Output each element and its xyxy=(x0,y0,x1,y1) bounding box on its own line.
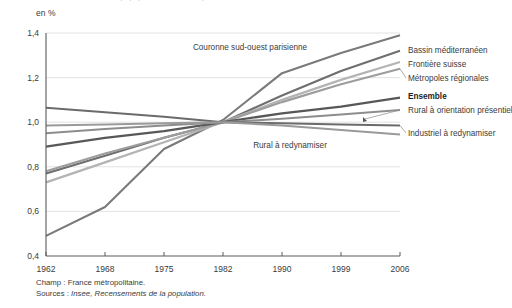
x-axis-tick-labels: 1962196819751982199019992006 xyxy=(37,264,410,274)
x-tick-label: 1982 xyxy=(214,264,233,274)
x-axis-tickmarks xyxy=(46,252,400,256)
series-label-rural-redynamiser: Rural à redynamiser xyxy=(253,141,327,150)
x-tick-label: 1962 xyxy=(37,264,56,274)
y-tick-label: 0,6 xyxy=(27,206,39,216)
chart-figure: · · · · en % 0,40,60,81,01,21,4 19621968… xyxy=(0,0,512,308)
series-label-fronti-re-suisse: Frontière suisse xyxy=(408,60,467,69)
x-tick-label: 2006 xyxy=(391,264,410,274)
footnote-sources: Sources : Insee, Recensements de la popu… xyxy=(36,289,206,300)
footnotes: Champ : France métropolitaine. Sources :… xyxy=(36,278,206,299)
axes-group xyxy=(46,33,400,256)
y-axis-tick-labels: 0,40,60,81,01,21,4 xyxy=(27,28,39,261)
data-series-group xyxy=(46,35,400,236)
y-tick-label: 1,2 xyxy=(27,73,39,83)
series-leader-line xyxy=(400,126,406,134)
series-label-m-tropoles-r-gionales: Métropoles régionales xyxy=(408,74,489,83)
series-label-bassin-m-diterran-en: Bassin méditerranéen xyxy=(408,46,488,55)
footnote-champ: Champ : France métropolitaine. xyxy=(36,278,206,289)
series-label-industriel-redynamiser: Industriel à redynamiser xyxy=(408,129,496,138)
footnote-sources-text: Insee, Recensements de la population. xyxy=(71,289,206,298)
series-label-couronne-sud-ouest-parisienne: Couronne sud-ouest parisienne xyxy=(193,43,308,52)
x-tick-label: 1990 xyxy=(273,264,292,274)
x-tick-label: 1999 xyxy=(332,264,351,274)
x-tick-label: 1968 xyxy=(96,264,115,274)
callout-arrow-icon xyxy=(363,117,367,122)
series-label-ensemble: Ensemble xyxy=(408,92,447,101)
x-tick-label: 1975 xyxy=(155,264,174,274)
y-tick-label: 1,4 xyxy=(27,28,39,38)
series-leader-line xyxy=(400,69,406,78)
line-chart-plot: 0,40,60,81,01,21,4 196219681975198219901… xyxy=(0,0,512,308)
series-label-rural-orientation-pr-sentielle: Rural à orientation présentielle xyxy=(408,106,512,115)
y-tick-label: 0,8 xyxy=(27,162,39,172)
y-tick-label: 1,0 xyxy=(27,117,39,127)
series-labels-group: Bassin méditerranéenFrontière suisseMétr… xyxy=(193,43,512,150)
series-line xyxy=(46,35,400,236)
y-tick-label: 0,4 xyxy=(27,251,39,261)
footnote-sources-lead: Sources : xyxy=(36,289,71,298)
